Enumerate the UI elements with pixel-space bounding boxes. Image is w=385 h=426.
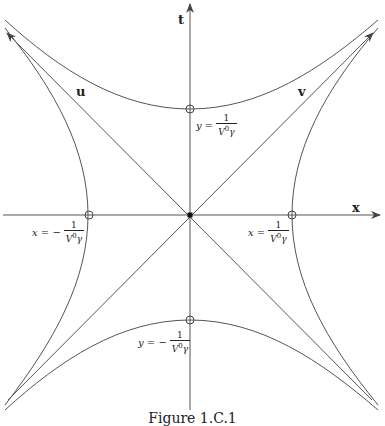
- figure-caption: Figure 1.C.1: [0, 410, 385, 426]
- den-tail: γ: [183, 344, 188, 354]
- annotation-lhs: y =: [196, 120, 213, 131]
- annotation-bottom-vertex: y = − 1 V0γ: [138, 330, 190, 355]
- fraction-denominator: V0γ: [170, 340, 190, 355]
- annotation-top-vertex: y = 1 V0γ: [196, 113, 237, 138]
- annotation-lhs: x = −: [32, 227, 61, 238]
- fraction: 1 V0γ: [268, 220, 288, 245]
- origin-point: [188, 213, 193, 218]
- lower-hyperbola: [5, 320, 378, 410]
- den-tail: γ: [77, 234, 82, 244]
- fraction: 1 V0γ: [170, 330, 190, 355]
- annotation-lhs: y = −: [138, 337, 167, 348]
- fraction-denominator: V0γ: [64, 230, 84, 245]
- den-tail: γ: [229, 127, 234, 137]
- fraction-denominator: V0γ: [216, 123, 236, 138]
- fraction: 1 V0γ: [216, 113, 236, 138]
- fraction: 1 V0γ: [64, 220, 84, 245]
- fraction-numerator: 1: [222, 113, 232, 123]
- fraction-numerator: 1: [69, 220, 79, 230]
- fraction-denominator: V0γ: [268, 230, 288, 245]
- upper-hyperbola: [5, 20, 378, 109]
- annotation-left-vertex: x = − 1 V0γ: [32, 220, 84, 245]
- fraction-numerator: 1: [175, 330, 185, 340]
- annotation-lhs: x =: [248, 227, 265, 238]
- fraction-numerator: 1: [274, 220, 284, 230]
- v-line-label: v: [298, 84, 306, 99]
- x-axis-label: x: [352, 200, 360, 215]
- t-axis-label: t: [178, 12, 184, 27]
- den-tail: γ: [281, 234, 286, 244]
- u-line-label: u: [76, 84, 85, 99]
- spacetime-diagram: [0, 0, 385, 426]
- annotation-right-vertex: x = 1 V0γ: [248, 220, 289, 245]
